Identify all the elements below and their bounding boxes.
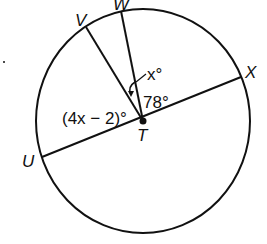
angle-label-x: x° [147,65,162,84]
center-point [140,118,147,125]
leader-line [136,74,146,82]
stray-dot [3,61,5,63]
angle-label-4x-2: (4x − 2)° [62,109,127,128]
label-U: U [22,152,35,171]
label-T: T [137,126,149,145]
label-X: X [244,63,257,82]
label-W: W [113,0,131,14]
angle-label-78: 78° [143,93,169,112]
circle-diagram: V W X U T x° 78° (4x − 2)° [0,0,267,244]
label-V: V [75,11,88,30]
